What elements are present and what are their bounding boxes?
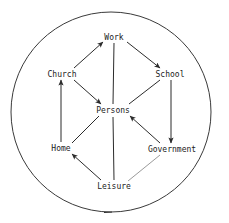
edge-home-persons — [72, 116, 99, 143]
node-school: School — [155, 70, 186, 79]
diagram-canvas: Work Church School Persons Home Governme… — [0, 0, 229, 223]
node-church: Church — [47, 70, 78, 79]
edge-church-work — [74, 42, 103, 68]
node-home: Home — [50, 144, 71, 153]
edge-work-school — [127, 42, 160, 68]
node-leisure: Leisure — [96, 182, 132, 191]
circle-tick-mark — [104, 212, 112, 213]
node-work: Work — [103, 33, 124, 42]
edge-leisure-home — [72, 154, 101, 180]
edge-persons-leisure — [113, 117, 114, 180]
edge-church-persons — [74, 80, 101, 104]
edge-work-persons — [113, 43, 114, 104]
edge-persons-school — [129, 80, 160, 104]
node-persons: Persons — [95, 106, 131, 115]
edge-government-persons — [130, 116, 160, 143]
edge-government-leisure — [128, 155, 160, 181]
node-government: Government — [147, 145, 197, 154]
